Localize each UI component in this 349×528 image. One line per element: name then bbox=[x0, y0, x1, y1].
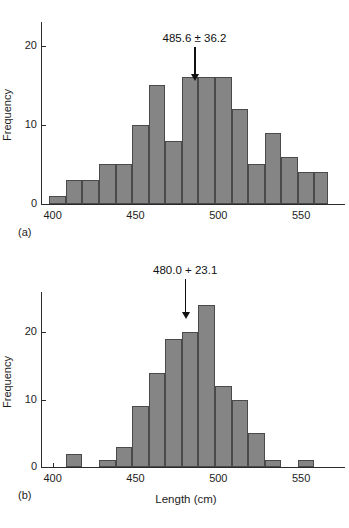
mean-annotation: 485.6 ± 36.2 bbox=[134, 32, 254, 44]
x-tick-label: 400 bbox=[33, 473, 73, 484]
histogram-bar bbox=[248, 433, 265, 467]
histogram-bar bbox=[82, 180, 99, 204]
x-tick-label: 550 bbox=[281, 473, 321, 484]
y-tick bbox=[42, 204, 46, 205]
x-tick-label: 450 bbox=[115, 473, 155, 484]
panel-label: (b) bbox=[18, 489, 31, 501]
mean-arrow bbox=[181, 279, 190, 319]
x-axis-title: Length (cm) bbox=[41, 493, 331, 505]
panel-a: 01020400450500550Frequency(a)485.6 ± 36.… bbox=[0, 0, 349, 264]
x-axis-line-b bbox=[41, 467, 345, 468]
panel-label: (a) bbox=[18, 226, 31, 238]
arrow-shaft bbox=[194, 47, 195, 74]
plot-area-a: 01020400450500550Frequency(a)485.6 ± 36.… bbox=[0, 0, 349, 264]
histogram-bar bbox=[66, 180, 83, 204]
x-tick-label: 500 bbox=[198, 473, 238, 484]
plot-area-b: 01020400450500550FrequencyLength (cm)(b)… bbox=[0, 264, 349, 528]
bar-series bbox=[0, 22, 349, 204]
mean-arrow bbox=[190, 47, 199, 81]
x-tick-label: 450 bbox=[115, 210, 155, 221]
histogram-bar bbox=[132, 125, 149, 204]
y-axis-title: Frequency bbox=[1, 356, 13, 408]
mean-annotation: 480.0 + 23.1 bbox=[125, 264, 245, 276]
histogram-bar bbox=[116, 164, 133, 204]
arrow-shaft bbox=[185, 279, 186, 312]
histogram-bar bbox=[165, 141, 182, 204]
histogram-bar bbox=[149, 85, 166, 204]
histogram-bar bbox=[182, 332, 199, 467]
x-axis-line-a bbox=[41, 204, 345, 205]
histogram-bar bbox=[248, 164, 265, 204]
histogram-bar bbox=[132, 406, 149, 467]
histogram-bar bbox=[265, 133, 282, 204]
histogram-bar bbox=[232, 109, 249, 204]
histogram-bar bbox=[165, 339, 182, 467]
y-tick bbox=[42, 467, 46, 468]
histogram-bar bbox=[149, 373, 166, 467]
histogram-bar bbox=[314, 172, 327, 204]
histogram-bar bbox=[198, 77, 215, 204]
bar-series bbox=[0, 292, 349, 467]
figure-histograms: 01020400450500550Frequency(a)485.6 ± 36.… bbox=[0, 0, 349, 528]
histogram-bar bbox=[281, 157, 298, 204]
histogram-bar bbox=[265, 460, 282, 467]
histogram-bar bbox=[215, 386, 232, 467]
histogram-bar bbox=[298, 172, 315, 204]
histogram-bar bbox=[182, 77, 199, 204]
x-tick-label: 550 bbox=[281, 210, 321, 221]
histogram-bar bbox=[66, 454, 83, 467]
y-axis-title: Frequency bbox=[1, 89, 13, 141]
histogram-bar bbox=[232, 400, 249, 467]
histogram-bar bbox=[99, 164, 116, 204]
arrow-head bbox=[182, 312, 190, 319]
histogram-bar bbox=[116, 447, 133, 467]
histogram-bar bbox=[198, 305, 215, 467]
x-tick-label: 400 bbox=[33, 210, 73, 221]
arrow-head bbox=[191, 74, 199, 81]
histogram-bar bbox=[215, 77, 232, 204]
histogram-bar bbox=[99, 460, 116, 467]
histogram-bar bbox=[298, 460, 315, 467]
histogram-bar bbox=[49, 196, 66, 204]
panel-b: 01020400450500550FrequencyLength (cm)(b)… bbox=[0, 264, 349, 528]
x-tick-label: 500 bbox=[198, 210, 238, 221]
